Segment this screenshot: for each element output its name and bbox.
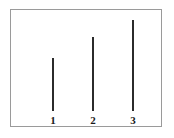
bar-label-3: 3 [125, 115, 141, 126]
bar-label-2: 2 [85, 115, 101, 126]
bar-line-3 [132, 20, 134, 111]
plot-frame: 1 2 3 [10, 9, 162, 127]
bar-line-1 [52, 58, 54, 111]
bar-line-2 [92, 37, 94, 111]
figure-canvas: 1 2 3 [0, 0, 174, 138]
bar-label-1: 1 [45, 115, 61, 126]
